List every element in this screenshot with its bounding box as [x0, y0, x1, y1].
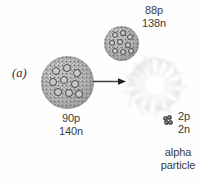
- nucleon: [117, 39, 123, 45]
- alpha-particle-name-label: alpha particle: [152, 146, 204, 171]
- daughter-nucleus-label: 88p 138n: [128, 4, 180, 29]
- nucleon: [49, 78, 57, 86]
- parent-nucleus: [41, 56, 94, 109]
- nucleon: [71, 80, 79, 88]
- nucleon: [60, 76, 68, 84]
- nucleon: [63, 64, 71, 72]
- daughter-neutrons-label: 138n: [128, 17, 180, 30]
- alpha-neutrons-label: 2n: [178, 123, 202, 136]
- nucleon: [109, 40, 115, 46]
- nucleon: [65, 89, 73, 97]
- parent-protons-label: 90p: [46, 112, 96, 125]
- alpha-protons-label: 2p: [178, 110, 202, 123]
- nucleon: [120, 30, 126, 36]
- nucleon: [52, 67, 60, 75]
- nucleon: [112, 48, 118, 54]
- alpha-particle-glyph: [163, 115, 174, 126]
- nucleon: [75, 90, 83, 98]
- alpha-nucleon: [168, 120, 173, 125]
- alpha-name-line-1: alpha: [152, 146, 204, 159]
- daughter-protons-label: 88p: [128, 4, 180, 17]
- nucleon: [127, 34, 133, 40]
- alpha-name-line-2: particle: [152, 159, 204, 172]
- nucleon: [54, 88, 62, 96]
- nucleon: [73, 69, 81, 77]
- panel-letter: (a): [12, 66, 27, 81]
- nucleon: [112, 32, 118, 38]
- alpha-particle-composition-label: 2p 2n: [178, 110, 202, 135]
- parent-nucleus-label: 90p 140n: [46, 112, 96, 137]
- parent-neutrons-label: 140n: [46, 125, 96, 138]
- explosion-burst: [122, 52, 188, 118]
- alpha-decay-diagram: (a) 90p 140n 88p 138n: [0, 0, 205, 183]
